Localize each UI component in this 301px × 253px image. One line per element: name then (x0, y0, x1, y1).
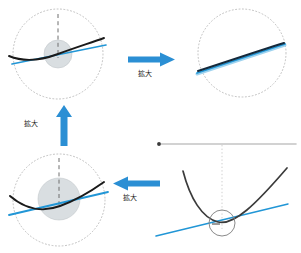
arrow-up-left: 拡大 (44, 104, 78, 150)
arrow-right-glyph (128, 53, 175, 67)
arrow-right-top-label: 拡大 (138, 71, 151, 78)
panel-max-zoom-view (186, 2, 298, 106)
arrow-left-bottom-label: 拡大 (123, 195, 136, 202)
curve-path (183, 168, 287, 222)
mid-zoom-svg (0, 2, 116, 106)
arrow-left-glyph (113, 177, 160, 191)
arrow-right-icon (126, 52, 180, 70)
tangent-line (156, 204, 288, 236)
arrow-up-glyph (56, 105, 72, 146)
panel-mid-zoom-view (0, 2, 116, 106)
tangent-line-halo (197, 45, 285, 74)
max-zoom-svg (186, 2, 298, 106)
curve-path (198, 43, 284, 71)
outer-dotted-circle (198, 9, 286, 97)
panel-full-curve-view (150, 136, 301, 246)
origin-dot (157, 142, 161, 146)
zoom-diagram-figure: 拡大 拡大 拡大 (0, 0, 301, 253)
inner-zoom-circle (38, 178, 80, 220)
arrow-right-top: 拡大 (126, 52, 180, 82)
arrow-up-icon (54, 104, 74, 148)
arrow-up-left-label: 拡大 (24, 121, 37, 128)
low-zoom-svg (0, 148, 118, 253)
arrow-left-icon (112, 176, 162, 194)
arrow-left-bottom: 拡大 (112, 176, 166, 206)
tangent-line (197, 44, 285, 73)
panel-low-zoom-view (0, 148, 118, 253)
full-curve-svg (150, 136, 301, 246)
